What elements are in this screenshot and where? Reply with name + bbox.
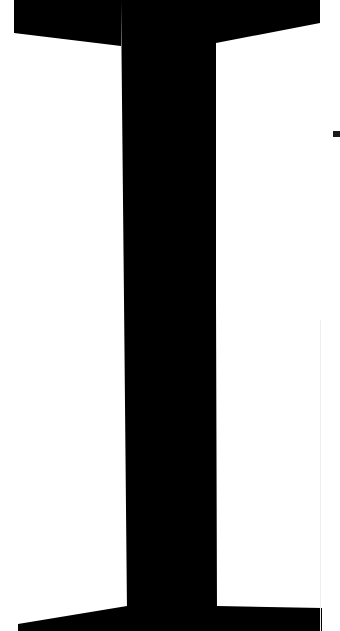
edge-tick-mark [333,131,340,137]
letter-t-stem [121,0,217,612]
glyph-vector-surface [0,0,340,631]
antialias-hairline [320,320,321,631]
magnified-glyph-canvas: T [0,0,340,631]
